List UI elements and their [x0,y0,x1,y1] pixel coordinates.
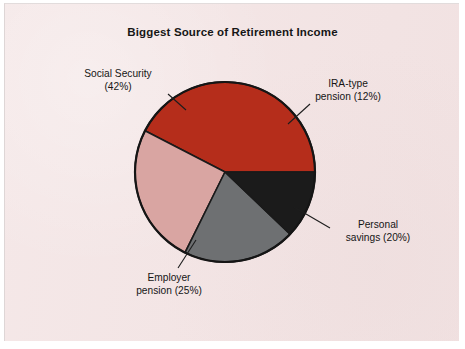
label-personal-savings: Personal savings (20%) [330,219,426,244]
label-social-security-line2: (42%) [62,81,174,94]
label-ira-pension-line1: IRA-type [296,78,400,91]
label-employer-pension-line1: Employer [114,272,224,285]
label-employer-pension: Employer pension (25%) [114,272,224,297]
chart-page: Biggest Source of Retirement Income Soci… [0,0,465,349]
label-employer-pension-line2: pension (25%) [114,285,224,298]
pie-chart [133,80,317,264]
label-social-security-line1: Social Security [62,68,174,81]
label-personal-savings-line2: savings (20%) [330,232,426,245]
page-title: Biggest Source of Retirement Income [0,26,465,38]
label-ira-pension-line2: pension (12%) [296,91,400,104]
label-personal-savings-line1: Personal [330,219,426,232]
label-ira-pension: IRA-type pension (12%) [296,78,400,103]
label-social-security: Social Security (42%) [62,68,174,93]
